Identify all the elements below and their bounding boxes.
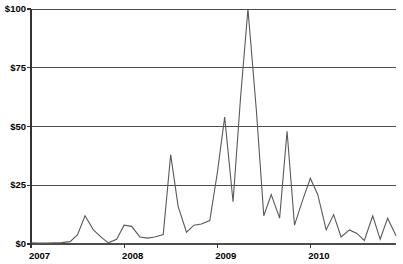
x-axis-tick-label: 2007 bbox=[29, 251, 50, 261]
gridlines bbox=[31, 9, 396, 244]
chart-plot-area bbox=[0, 0, 403, 264]
y-axis-tick-label: $50 bbox=[10, 122, 26, 132]
y-axis-tick-label: $25 bbox=[10, 180, 26, 190]
x-axis-tick-label: 2009 bbox=[215, 251, 236, 261]
y-axis-tick-label: $100 bbox=[5, 4, 26, 14]
y-axis-tick-label: $75 bbox=[10, 63, 26, 73]
x-axis-tick-label: 2008 bbox=[122, 251, 143, 261]
y-axis-tick-label: $0 bbox=[15, 239, 26, 249]
axis-tick-marks bbox=[27, 9, 310, 248]
x-axis-tick-label: 2010 bbox=[308, 251, 329, 261]
line-chart: $0$25$50$75$100 2007200820092010 bbox=[0, 0, 403, 264]
